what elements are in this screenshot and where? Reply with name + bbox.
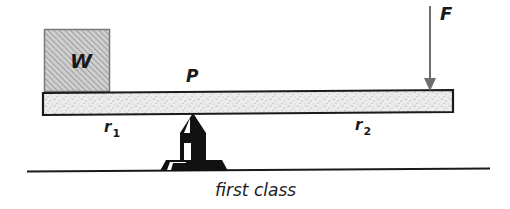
r2-base: r: [355, 116, 362, 134]
weight-label: W: [70, 51, 92, 71]
r2-label: r2: [355, 118, 371, 133]
r1-base: r: [104, 118, 111, 136]
force-label: F: [440, 5, 452, 23]
first-class-lever-diagram: [0, 0, 510, 209]
lever-beam: [43, 90, 453, 115]
fulcrum-label: P: [186, 68, 198, 85]
diagram-caption: first class: [215, 182, 296, 199]
r2-subscript: 2: [363, 125, 371, 138]
force-arrow: [424, 6, 436, 91]
ground-line: [27, 169, 490, 172]
r1-label: r1: [104, 120, 120, 135]
r1-subscript: 1: [112, 127, 120, 140]
fulcrum: [160, 113, 228, 171]
